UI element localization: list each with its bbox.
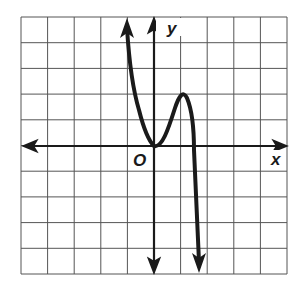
- y-axis-label: y: [166, 19, 178, 38]
- x-axis-label: x: [270, 150, 282, 169]
- x-axis-left-arrow-icon: [24, 141, 36, 151]
- origin-label: O: [133, 151, 146, 170]
- y-axis-down-arrow-icon: [149, 259, 159, 272]
- graph-canvas: y x O: [0, 0, 298, 283]
